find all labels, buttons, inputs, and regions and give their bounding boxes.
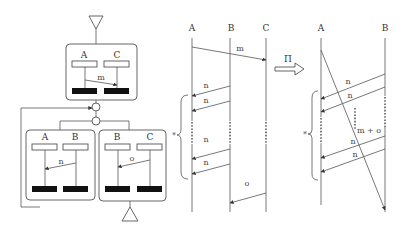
- composition-diagram: A C m A B n: [21, 16, 166, 221]
- sequence-after: A B n n m + o n n *: [303, 23, 389, 212]
- message-label-n: n: [203, 135, 208, 144]
- message-label-n: n: [58, 157, 63, 166]
- lifeline-label-a: A: [188, 23, 196, 33]
- message-label-n: n: [352, 150, 357, 159]
- message-label-n: n: [203, 81, 208, 90]
- message-label-o: o: [245, 179, 250, 188]
- transform-label: Π: [284, 54, 292, 64]
- sequence-before: A B C m n n n n o *: [172, 23, 270, 212]
- repeat-brace: [177, 95, 188, 179]
- message-label-n: n: [203, 96, 208, 105]
- lifeline-label-a: A: [41, 132, 49, 142]
- lifeline-label-c: C: [114, 50, 121, 60]
- message-label-m: m: [97, 73, 105, 82]
- lifeline-label-c: C: [147, 132, 154, 142]
- lifeline-label-a: A: [80, 50, 88, 60]
- message-label-o: o: [130, 154, 135, 163]
- repeat-marker: *: [172, 131, 176, 140]
- message-label-m: m: [236, 44, 244, 53]
- transform-arrow: Π: [275, 54, 304, 75]
- message-label-m-plus-o: m + o: [357, 126, 381, 135]
- message-label-n: n: [345, 77, 350, 86]
- repeat-marker: *: [303, 130, 307, 139]
- join-node: [92, 103, 100, 111]
- bottom-right-box: B C o: [99, 130, 166, 201]
- top-box: A C m: [66, 44, 137, 100]
- message-label-n: n: [347, 91, 352, 100]
- repeat-brace: [308, 91, 318, 180]
- start-triangle-icon: [89, 16, 103, 29]
- message-label-n: n: [203, 158, 208, 167]
- lifeline-label-b: B: [228, 23, 235, 33]
- bottom-left-box: A B n: [26, 130, 95, 200]
- lifeline-label-b: B: [382, 23, 389, 33]
- lifeline-label-a: A: [317, 23, 325, 33]
- diagram-canvas: A C m A B n: [0, 0, 402, 235]
- lifeline-label-b: B: [72, 132, 79, 142]
- lifeline-label-c: C: [263, 23, 270, 33]
- fork-node: [92, 117, 100, 125]
- message-label-n: n: [350, 137, 355, 146]
- end-triangle-icon: [122, 207, 138, 221]
- lifeline-label-b: B: [114, 132, 121, 142]
